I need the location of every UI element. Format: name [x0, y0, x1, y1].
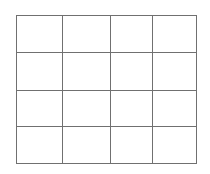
grid-horizontal-line [16, 15, 197, 16]
grid-horizontal-line [16, 163, 197, 164]
grid-horizontal-line [16, 90, 197, 91]
grid-horizontal-line [16, 52, 197, 53]
grid-horizontal-line [16, 126, 197, 127]
